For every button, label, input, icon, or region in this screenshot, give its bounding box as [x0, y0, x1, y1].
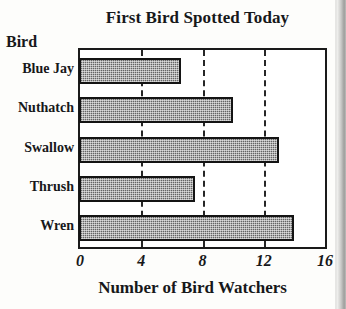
y-axis-tick-label: Thrush [0, 179, 74, 195]
chart-screenshot: First Bird Spotted Today Bird Blue JayNu… [0, 0, 346, 309]
y-axis-tick-label: Blue Jay [0, 61, 74, 77]
bar [79, 137, 279, 163]
plot-inner [80, 50, 325, 247]
y-axis-tick-labels: Blue JayNuthatchSwallowThrushWren [0, 48, 74, 249]
x-axis-tick-label: 12 [247, 252, 281, 270]
bar [79, 176, 195, 202]
chart-title: First Bird Spotted Today [70, 8, 325, 28]
plot-area [78, 48, 327, 249]
y-axis-tick-label: Wren [0, 218, 74, 234]
x-axis-tick-label: 8 [186, 252, 220, 270]
x-axis-tick-label: 16 [308, 252, 342, 270]
x-axis-tick-label: 4 [124, 252, 158, 270]
bar [79, 215, 294, 241]
bar [79, 97, 233, 123]
y-axis-tick-label: Swallow [0, 140, 74, 156]
x-axis-title: Number of Bird Watchers [50, 278, 335, 298]
y-axis-tick-label: Nuthatch [0, 100, 74, 116]
x-axis-tick-label: 0 [63, 252, 97, 270]
bar [79, 58, 181, 84]
